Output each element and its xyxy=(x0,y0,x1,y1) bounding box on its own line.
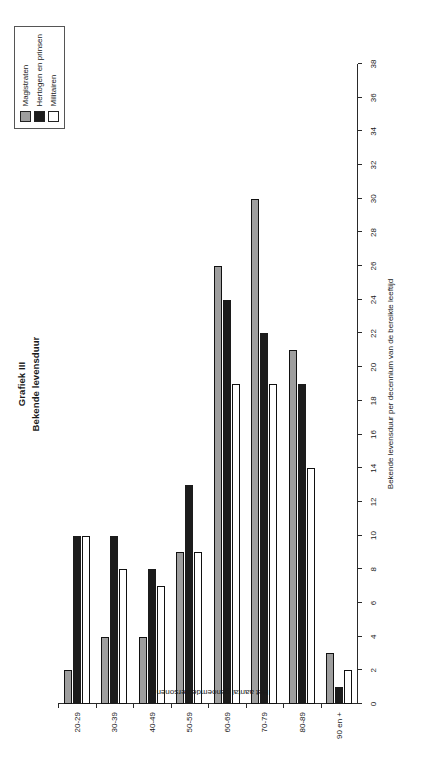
chart-figure: Grafiek III Bekende levensduur Magistrat… xyxy=(0,0,444,768)
value-axis-tick xyxy=(358,568,362,569)
value-axis-tick xyxy=(358,63,362,64)
value-axis-tick-label: 20 xyxy=(369,354,378,380)
legend-item-label: Militairen xyxy=(49,74,58,106)
category-axis-tick xyxy=(96,704,97,708)
bar xyxy=(148,569,156,704)
value-axis-tick xyxy=(358,130,362,131)
value-axis-tick-label: 36 xyxy=(369,85,378,111)
value-axis-tick-label: 12 xyxy=(369,489,378,515)
bar xyxy=(223,300,231,704)
value-axis-tick-label: 8 xyxy=(369,556,378,582)
legend-swatch-icon xyxy=(20,112,31,123)
value-axis-tick xyxy=(358,636,362,637)
bar xyxy=(307,468,315,704)
value-axis-tick-label: 28 xyxy=(369,219,378,245)
value-axis-tick-label: 30 xyxy=(369,186,378,212)
bar xyxy=(185,485,193,704)
value-axis-tick xyxy=(358,265,362,266)
bar-group xyxy=(321,64,359,704)
category-axis-tick-label: 20-29 xyxy=(72,712,81,732)
value-axis-tick xyxy=(358,400,362,401)
bar xyxy=(176,552,184,704)
category-axis-tick-label: 30-39 xyxy=(110,712,119,732)
bar xyxy=(82,536,90,704)
bar xyxy=(157,586,165,704)
value-axis-tick-label: 18 xyxy=(369,388,378,414)
bar-group xyxy=(246,64,284,704)
value-axis-tick-label: 34 xyxy=(369,118,378,144)
value-axis-tick-label: 38 xyxy=(369,51,378,77)
bar-group xyxy=(171,64,209,704)
legend-item-label: Hertogen en prinsen xyxy=(35,34,44,107)
value-axis-tick xyxy=(358,669,362,670)
value-axis-tick xyxy=(358,164,362,165)
bar xyxy=(214,266,222,704)
category-axis-tick-label: 80-89 xyxy=(297,712,306,732)
bar-group xyxy=(58,64,96,704)
category-axis-tick-label: 50-59 xyxy=(185,712,194,732)
category-axis-tick xyxy=(58,704,59,708)
legend-item-label: Magistraten xyxy=(21,65,30,107)
category-axis-tick xyxy=(283,704,284,708)
bar xyxy=(298,384,306,704)
value-axis-tick-label: 32 xyxy=(369,152,378,178)
legend-swatch-icon xyxy=(34,112,45,123)
bar xyxy=(119,569,127,704)
bar xyxy=(110,536,118,704)
legend-item: Magistraten xyxy=(20,34,31,123)
value-axis-tick-label: 0 xyxy=(369,691,378,717)
plot-area: 02468101214161820222426283032343638 20-2… xyxy=(58,64,358,704)
bar xyxy=(289,350,297,704)
value-axis-tick xyxy=(358,231,362,232)
value-axis-tick-label: 2 xyxy=(369,657,378,683)
value-axis-tick-label: 10 xyxy=(369,523,378,549)
value-axis-tick xyxy=(358,602,362,603)
value-axis-tick xyxy=(358,434,362,435)
value-axis-tick xyxy=(358,97,362,98)
value-axis-tick-label: 26 xyxy=(369,253,378,279)
value-axis-tick xyxy=(358,535,362,536)
value-axis-tick xyxy=(358,703,362,704)
bar xyxy=(260,333,268,704)
y-axis-title: Het aantal genoemde personen xyxy=(63,688,363,697)
bar xyxy=(269,384,277,704)
x-axis-title: Bekende levensduur per decennium van de … xyxy=(386,64,395,704)
bar xyxy=(73,536,81,704)
value-axis-tick xyxy=(358,501,362,502)
bar-group xyxy=(208,64,246,704)
category-axis-tick xyxy=(321,704,322,708)
value-axis-tick-label: 16 xyxy=(369,422,378,448)
bar-group xyxy=(283,64,321,704)
bar xyxy=(251,199,259,704)
category-axis-tick-label: 60-69 xyxy=(222,712,231,732)
value-axis-tick-label: 24 xyxy=(369,287,378,313)
bar xyxy=(194,552,202,704)
category-axis-tick-label: 40-49 xyxy=(147,712,156,732)
category-axis-tick xyxy=(208,704,209,708)
rotated-figure-wrapper: Grafiek III Bekende levensduur Magistrat… xyxy=(0,0,444,768)
value-axis-tick xyxy=(358,198,362,199)
value-axis-tick-label: 14 xyxy=(369,455,378,481)
value-axis-tick xyxy=(358,299,362,300)
bar-group xyxy=(96,64,134,704)
category-axis-tick xyxy=(133,704,134,708)
value-axis-tick-label: 4 xyxy=(369,624,378,650)
value-axis-tick xyxy=(358,332,362,333)
bar-group xyxy=(133,64,171,704)
bar xyxy=(232,384,240,704)
category-axis-tick xyxy=(246,704,247,708)
value-axis-tick-label: 6 xyxy=(369,590,378,616)
legend-item: Hertogen en prinsen xyxy=(34,34,45,123)
value-axis-tick-label: 22 xyxy=(369,320,378,346)
value-axis-tick xyxy=(358,366,362,367)
value-axis-tick xyxy=(358,467,362,468)
category-axis-tick xyxy=(171,704,172,708)
category-axis-tick-label: 70-79 xyxy=(260,712,269,732)
category-axis-tick-label: 90 en + xyxy=(335,712,344,739)
